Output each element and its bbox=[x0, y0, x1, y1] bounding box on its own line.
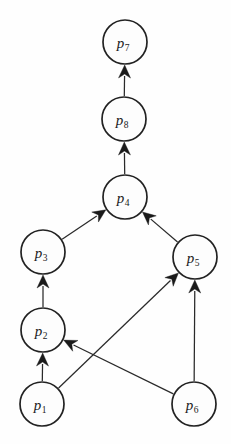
graph-diagram: p1p2p3p4p5p6p7p8 bbox=[0, 0, 231, 444]
graph-node-p8[interactable]: p8 bbox=[102, 97, 146, 141]
node-label-subscript: 2 bbox=[43, 331, 48, 341]
graph-node-p5[interactable]: p5 bbox=[173, 235, 217, 279]
graph-edge-p4-to-p8 bbox=[118, 142, 130, 174]
graph-edge-p5-to-p4 bbox=[142, 212, 177, 242]
edge-shaft bbox=[74, 345, 174, 394]
graph-edge-p2-to-p3 bbox=[37, 275, 49, 307]
graph-canvas: p1p2p3p4p5p6p7p8 bbox=[0, 0, 231, 444]
arrow-head-icon bbox=[92, 210, 106, 222]
graph-node-p6[interactable]: p6 bbox=[172, 382, 216, 426]
arrow-head-icon bbox=[142, 212, 156, 225]
edge-shaft bbox=[151, 219, 178, 242]
graph-edge-p1-to-p2 bbox=[37, 353, 49, 381]
graph-edge-p8-to-p7 bbox=[119, 65, 131, 96]
node-label-subscript: 3 bbox=[43, 253, 48, 263]
edge-shaft bbox=[194, 291, 195, 381]
node-label-subscript: 6 bbox=[194, 405, 199, 415]
node-label-subscript: 4 bbox=[125, 198, 130, 208]
node-layer: p1p2p3p4p5p6p7p8 bbox=[20, 20, 217, 426]
node-label-subscript: 8 bbox=[124, 120, 129, 130]
graph-node-p1[interactable]: p1 bbox=[20, 382, 64, 426]
edge-shaft bbox=[62, 216, 97, 239]
node-label-subscript: 7 bbox=[125, 43, 130, 53]
graph-edge-p1-to-p5 bbox=[59, 273, 179, 388]
graph-node-p2[interactable]: p2 bbox=[21, 308, 65, 352]
node-label-subscript: 1 bbox=[42, 405, 47, 415]
graph-node-p4[interactable]: p4 bbox=[103, 175, 147, 219]
node-label-subscript: 5 bbox=[195, 258, 200, 268]
edge-shaft bbox=[59, 281, 171, 389]
graph-node-p3[interactable]: p3 bbox=[21, 230, 65, 274]
graph-edge-p3-to-p4 bbox=[62, 210, 106, 239]
graph-edge-p6-to-p5 bbox=[189, 280, 201, 381]
graph-node-p7[interactable]: p7 bbox=[103, 20, 147, 64]
